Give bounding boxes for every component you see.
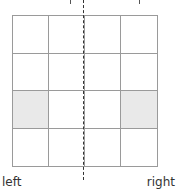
shaded-cell xyxy=(13,91,49,129)
grid-cell xyxy=(85,16,121,54)
grid-cell xyxy=(13,54,49,92)
grid-cell xyxy=(85,54,121,92)
grid-cell xyxy=(121,16,157,54)
grid-cell xyxy=(49,91,85,129)
grid-cell xyxy=(13,129,49,167)
grid-cell xyxy=(13,16,49,54)
right-label: right xyxy=(147,175,175,189)
grid-cell xyxy=(121,54,157,92)
shaded-cell xyxy=(121,91,157,129)
grid-cell xyxy=(49,16,85,54)
grid-cell xyxy=(85,129,121,167)
top-edge-mark-left xyxy=(70,0,71,4)
top-edge-mark-right xyxy=(139,0,140,4)
grid-cell xyxy=(49,54,85,92)
left-label: left xyxy=(2,175,21,189)
square-grid xyxy=(12,15,158,167)
grid-cell xyxy=(121,129,157,167)
grid-cell xyxy=(49,129,85,167)
line-of-symmetry xyxy=(83,0,84,180)
grid-cell xyxy=(85,91,121,129)
